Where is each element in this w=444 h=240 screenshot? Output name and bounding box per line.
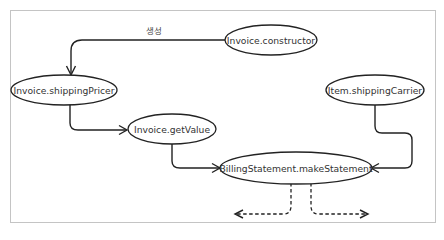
node-invoice-get-value[interactable]: Invoice.getValue [128,114,216,144]
edge-label-create: 생성 [146,26,162,36]
node-label: BillingStatement.makeStatement [219,163,372,174]
node-label: Item.shippingCarrier [328,85,423,96]
node-label: Invoice.constructor [227,35,316,46]
node-label: Invoice.getValue [134,124,210,135]
node-billing-statement-make-statement[interactable]: BillingStatement.makeStatement [219,152,372,184]
node-item-shipping-carrier[interactable]: Item.shippingCarrier [326,75,424,105]
node-invoice-constructor[interactable]: Invoice.constructor [225,25,317,55]
node-invoice-shipping-pricer[interactable]: Invoice.shippingPricer [11,75,117,105]
node-label: Invoice.shippingPricer [14,85,115,96]
flow-diagram: 생성 Invoice.constructor Invoice.shippingP… [0,0,444,240]
